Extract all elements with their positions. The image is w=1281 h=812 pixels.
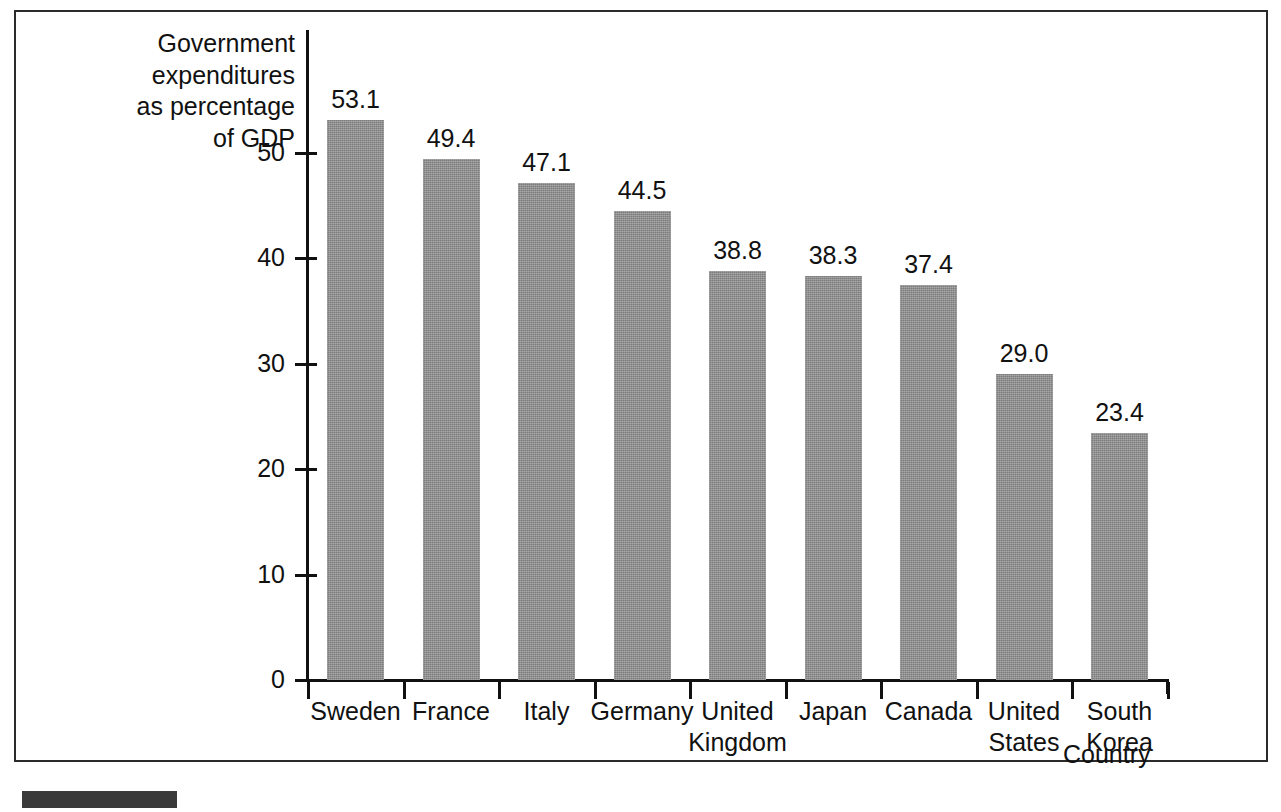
y-axis-tick — [295, 574, 317, 577]
x-axis-category-label: Sweden — [303, 696, 408, 727]
y-axis-tick — [295, 152, 317, 155]
bar[interactable] — [518, 183, 575, 680]
x-axis-category-label-line: Germany — [590, 696, 695, 727]
figure: Government expenditures as percentage of… — [0, 0, 1281, 812]
bar-value-label: 44.5 — [593, 178, 692, 203]
bar[interactable] — [900, 285, 957, 680]
y-axis-title-line-1: Government — [95, 28, 295, 60]
bar-value-label: 23.4 — [1070, 400, 1169, 425]
y-axis-tick-label: 50 — [165, 140, 285, 165]
x-axis-category-label-line: France — [399, 696, 504, 727]
x-axis-category-label-line: Japan — [781, 696, 886, 727]
y-axis-tick — [295, 679, 317, 682]
y-axis-tick — [295, 363, 317, 366]
bar-value-label: 53.1 — [306, 87, 405, 112]
bar-value-label: 49.4 — [402, 126, 501, 151]
x-axis-category-label: Italy — [494, 696, 599, 727]
y-axis-title-line-3: as percentage — [95, 91, 295, 123]
y-axis-tick-label: 30 — [165, 351, 285, 376]
bar[interactable] — [614, 211, 671, 680]
bar[interactable] — [709, 271, 766, 680]
x-axis-category-label: Canada — [876, 696, 981, 727]
bar[interactable] — [996, 374, 1053, 680]
bar-value-label: 38.8 — [688, 238, 787, 263]
caption-strip — [22, 791, 177, 808]
x-axis-category-label-line: Sweden — [303, 696, 408, 727]
bar[interactable] — [423, 159, 480, 680]
x-axis-category-label-line: States — [972, 727, 1077, 758]
x-axis-title: Country — [1063, 742, 1151, 767]
x-axis-category-label-line: United — [685, 696, 790, 727]
x-axis-category-label-line: Canada — [876, 696, 981, 727]
x-axis-category-label: UnitedStates — [972, 696, 1077, 757]
x-axis-category-label-line: South — [1067, 696, 1172, 727]
bar[interactable] — [1091, 433, 1148, 680]
x-axis-category-label: France — [399, 696, 504, 727]
x-axis-category-label: Germany — [590, 696, 695, 727]
y-axis-tick-label: 40 — [165, 245, 285, 270]
bar-value-label: 38.3 — [784, 243, 883, 268]
y-axis-tick-label: 0 — [165, 667, 285, 692]
bar-chart-plot: Government expenditures as percentage of… — [0, 0, 1281, 812]
y-axis-title: Government expenditures as percentage of… — [95, 28, 295, 154]
x-axis-category-label-line: Kingdom — [685, 727, 790, 758]
y-axis-tick — [295, 257, 317, 260]
bar-value-label: 29.0 — [975, 341, 1074, 366]
x-axis-category-label: Japan — [781, 696, 886, 727]
y-axis-tick-label: 10 — [165, 562, 285, 587]
x-axis-category-label-line: Italy — [494, 696, 599, 727]
y-axis-tick-label: 20 — [165, 456, 285, 481]
x-axis-category-label: UnitedKingdom — [685, 696, 790, 757]
bar-value-label: 37.4 — [879, 252, 978, 277]
bar[interactable] — [805, 276, 862, 680]
y-axis-line — [306, 30, 309, 682]
bar[interactable] — [327, 120, 384, 680]
y-axis-title-line-2: expenditures — [95, 60, 295, 92]
x-axis-category-label-line: United — [972, 696, 1077, 727]
bar-value-label: 47.1 — [497, 150, 596, 175]
y-axis-tick — [295, 468, 317, 471]
